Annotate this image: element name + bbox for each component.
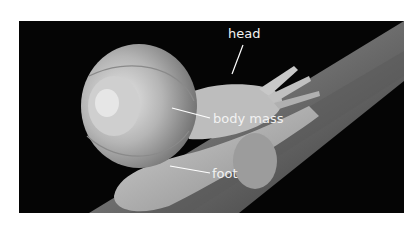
snail-illustration (19, 21, 404, 213)
snail-shell (81, 44, 197, 168)
snail-photo (19, 21, 404, 213)
label-foot: foot (212, 167, 238, 181)
label-head: head (228, 27, 260, 41)
label-body-mass: body mass (213, 112, 283, 126)
